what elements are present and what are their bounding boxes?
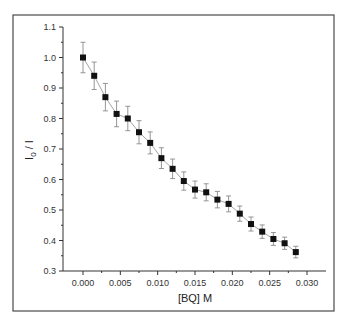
- data-point: [136, 121, 142, 144]
- square-marker: [282, 240, 288, 246]
- x-tick-label: 0.030: [296, 278, 319, 288]
- data-point: [270, 233, 276, 246]
- y-tick-label: 0.3: [43, 266, 56, 276]
- data-point: [248, 217, 254, 231]
- square-marker: [203, 189, 209, 195]
- y-tick-label: 0.6: [43, 175, 56, 185]
- y-tick-label: 0.7: [43, 144, 56, 154]
- square-marker: [248, 221, 254, 227]
- y-tick-label: 1.1: [43, 22, 56, 32]
- y-tick-label: 0.9: [43, 83, 56, 93]
- square-marker: [237, 211, 243, 217]
- data-point: [226, 196, 232, 212]
- y-tick-label: 1.0: [43, 53, 56, 63]
- square-marker: [125, 116, 131, 122]
- chart: 0.0000.0050.0100.0150.0200.0250.030 0.30…: [0, 0, 347, 324]
- square-marker: [293, 249, 299, 255]
- data-point: [147, 132, 153, 154]
- data-point: [259, 225, 265, 238]
- y-axis-ticks: 0.30.40.50.60.70.80.91.01.1: [43, 22, 63, 276]
- y-tick-label: 0.5: [43, 205, 56, 215]
- data-point: [214, 191, 220, 207]
- data-point: [282, 237, 288, 249]
- y-axis-title-rest: / I: [23, 140, 35, 152]
- y-tick-label: 0.4: [43, 236, 56, 246]
- square-marker: [91, 73, 97, 79]
- data-point: [80, 42, 86, 73]
- square-marker: [102, 94, 108, 100]
- data-point: [181, 172, 187, 190]
- data-point: [91, 62, 97, 89]
- axes: [63, 27, 326, 271]
- square-marker: [214, 197, 220, 203]
- square-marker: [259, 229, 265, 235]
- square-marker: [181, 178, 187, 184]
- data-point: [237, 206, 243, 221]
- data-point: [203, 184, 209, 201]
- x-tick-label: 0.015: [184, 278, 207, 288]
- square-marker: [170, 166, 176, 172]
- x-tick-label: 0.005: [109, 278, 132, 288]
- square-marker: [192, 187, 198, 193]
- square-marker: [158, 155, 164, 161]
- data-point: [114, 101, 120, 127]
- data-point: [125, 106, 131, 130]
- plot-area: [80, 42, 299, 258]
- x-tick-label: 0.025: [258, 278, 281, 288]
- data-point: [158, 148, 164, 169]
- square-marker: [114, 111, 120, 117]
- x-axis-title: [BQ] M: [178, 292, 212, 304]
- x-tick-label: 0.010: [146, 278, 169, 288]
- data-point: [293, 246, 299, 258]
- x-tick-label: 0.020: [221, 278, 244, 288]
- square-marker: [136, 129, 142, 135]
- x-tick-label: 0.000: [72, 278, 95, 288]
- square-marker: [147, 140, 153, 146]
- data-point: [192, 181, 198, 198]
- square-marker: [80, 55, 86, 61]
- x-axis-ticks: 0.0000.0050.0100.0150.0200.0250.030: [72, 271, 319, 288]
- square-marker: [226, 201, 232, 207]
- data-point: [170, 159, 176, 179]
- y-axis-title: I0 / I: [23, 140, 38, 160]
- y-tick-label: 0.8: [43, 114, 56, 124]
- figure-frame: [13, 15, 334, 311]
- series-line: [83, 58, 296, 253]
- data-point: [102, 83, 108, 110]
- square-marker: [270, 236, 276, 242]
